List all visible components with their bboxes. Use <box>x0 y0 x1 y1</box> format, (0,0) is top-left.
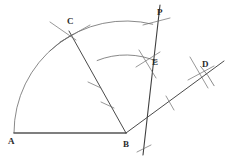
ray-bd <box>126 61 224 133</box>
tick-bc-lower <box>101 102 114 108</box>
ray-bc <box>69 31 126 133</box>
point-label-c: C <box>67 17 74 26</box>
point-label-p: P <box>157 8 163 17</box>
tick-mark-group <box>50 18 214 152</box>
construction-canvas <box>0 0 228 164</box>
point-label-a: A <box>8 137 15 146</box>
point-label-b: B <box>123 140 129 149</box>
geometry-figure: ABCDEP <box>0 0 228 164</box>
main-arc-a-to-top <box>14 21 153 133</box>
point-label-d: D <box>202 60 209 69</box>
arc-near-e <box>97 55 158 62</box>
ray-bp <box>143 5 160 155</box>
tick-p-cross <box>143 18 170 25</box>
segment-group <box>14 5 224 155</box>
point-label-e: E <box>152 58 158 67</box>
construction-arc-group <box>14 21 214 133</box>
